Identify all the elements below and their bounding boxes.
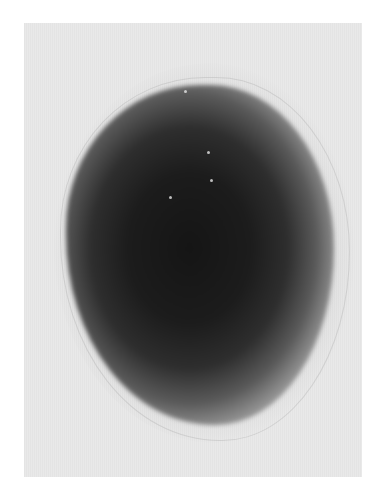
speck — [169, 196, 172, 199]
speck — [210, 179, 213, 182]
micrograph-panel — [24, 23, 362, 477]
speck — [184, 90, 187, 93]
speck — [207, 151, 210, 154]
